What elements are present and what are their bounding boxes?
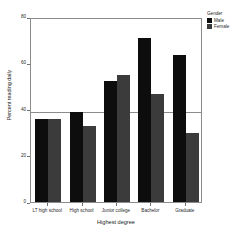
bar-group <box>35 19 61 202</box>
x-tick <box>47 203 48 206</box>
x-tick <box>116 203 117 206</box>
y-axis-title: Percent reading daily <box>6 40 12 150</box>
legend-label: Female <box>214 24 229 29</box>
bar-male-4 <box>173 55 186 202</box>
bar-group <box>70 19 96 202</box>
bar-male-3 <box>138 38 151 202</box>
bar-female-2 <box>117 75 130 202</box>
legend-item-male[interactable]: Male <box>207 18 251 23</box>
clustered-bar-chart: 020406080 Percent reading daily LT high … <box>0 0 252 240</box>
bar-female-1 <box>83 126 96 202</box>
plot-inner <box>31 19 201 202</box>
y-tick-label: 20 <box>21 153 26 158</box>
legend-swatch-male-icon <box>207 18 212 23</box>
legend-swatch-female-icon <box>207 24 212 29</box>
legend-title: Gender <box>207 11 251 17</box>
x-tick-label: Junior college <box>102 208 130 214</box>
x-axis-title: Highest degree <box>30 219 202 226</box>
x-tick-label: Graduate <box>175 208 194 214</box>
y-tick-label: 60 <box>21 60 26 65</box>
x-tick <box>150 203 151 206</box>
y-tick-label: 0 <box>23 199 26 204</box>
bar-female-0 <box>48 119 61 202</box>
legend-items: MaleFemale <box>207 18 251 29</box>
y-axis: 020406080 Percent reading daily <box>0 0 30 240</box>
legend-label: Male <box>214 18 224 23</box>
x-axis: LT high schoolHigh schoolJunior collegeB… <box>30 203 202 233</box>
y-tick-label: 40 <box>21 107 26 112</box>
bar-male-0 <box>35 119 48 202</box>
bar-male-2 <box>104 81 117 202</box>
bar-male-1 <box>70 112 83 202</box>
x-tick <box>185 203 186 206</box>
bar-group <box>104 19 130 202</box>
plot-area <box>30 18 202 203</box>
y-tick-label: 80 <box>21 14 26 19</box>
x-tick <box>82 203 83 206</box>
x-tick-label: LT high school <box>32 208 61 214</box>
bar-female-3 <box>151 94 164 202</box>
legend-item-female[interactable]: Female <box>207 24 251 29</box>
bar-group <box>138 19 164 202</box>
bar-group <box>173 19 199 202</box>
bar-female-4 <box>186 133 199 202</box>
legend: Gender MaleFemale <box>207 11 251 29</box>
x-tick-label: High school <box>70 208 94 214</box>
x-tick-label: Bachelor <box>141 208 159 214</box>
